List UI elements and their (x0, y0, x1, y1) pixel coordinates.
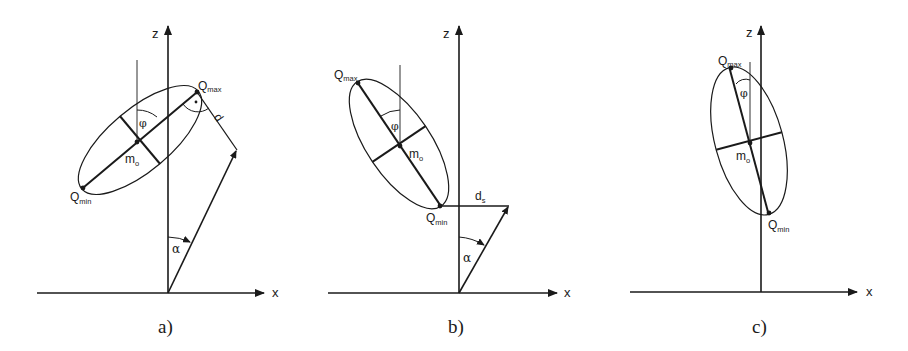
center-label: mo (409, 147, 423, 163)
panel-caption-b: b) (448, 316, 464, 338)
x-axis-label: x (272, 285, 279, 300)
alpha-label: α (463, 251, 471, 265)
x-axis-label: x (564, 285, 571, 300)
phi-label: φ (391, 120, 399, 133)
panel-b: x z φ Qmax Qmin mo ds α b) (328, 26, 571, 338)
position-vector (168, 151, 236, 293)
phi-angle-arc (736, 79, 750, 84)
position-vector (459, 207, 508, 293)
q-max-label: Qmax (198, 79, 222, 94)
center-point (398, 144, 403, 149)
center-label: mo (125, 152, 139, 168)
phi-angle-arc (137, 110, 157, 117)
distance-label: ds (475, 189, 486, 205)
q-max-label: Qmax (334, 68, 358, 83)
x-axis-label: x (866, 284, 873, 299)
phi-label: φ (740, 87, 748, 100)
q-min-label: Qmin (426, 211, 447, 227)
center-point (135, 140, 140, 145)
q-min-point (767, 211, 772, 216)
z-axis-label: z (746, 25, 753, 40)
panel-caption-a: a) (158, 316, 173, 338)
q-max-label: Qmax (718, 54, 742, 69)
right-angle-arc (183, 104, 209, 112)
distance-label: d (211, 111, 226, 125)
phi-angle-arc (381, 110, 400, 116)
phi-label: φ (139, 117, 147, 130)
center-label: mo (736, 149, 750, 165)
right-angle-dot (195, 101, 198, 104)
z-axis-label: z (152, 26, 159, 41)
ellipse-orientation-diagram: x z φ Qmax Qmin mo d α a) (0, 0, 908, 351)
alpha-angle-arc (459, 237, 484, 245)
z-axis-label: z (443, 26, 450, 41)
center-point (748, 141, 753, 146)
panel-a: x z φ Qmax Qmin mo d α a) (37, 26, 279, 338)
q-min-point (81, 186, 86, 191)
panel-caption-c: c) (752, 316, 767, 338)
alpha-label: α (172, 242, 180, 256)
q-min-label: Qmin (70, 190, 91, 206)
panel-c: x z φ Qmax Qmin mo c) (630, 25, 873, 338)
q-min-label: Qmin (768, 218, 789, 234)
